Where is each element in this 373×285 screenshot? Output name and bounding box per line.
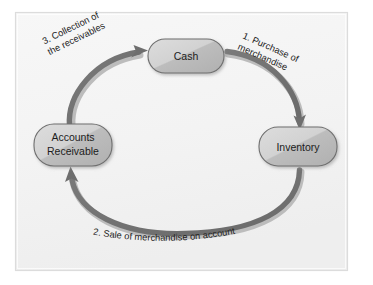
diagram-canvas: Cash Accounts Receivable Inventory 3. Co…: [0, 0, 373, 285]
node-inventory[interactable]: Inventory: [259, 127, 337, 166]
node-accounts-receivable-label-line1: Accounts: [51, 131, 94, 143]
node-inventory-label: Inventory: [276, 141, 320, 153]
operating-cycle-diagram: Cash Accounts Receivable Inventory 3. Co…: [0, 0, 373, 285]
node-accounts-receivable-label-line2: Receivable: [47, 145, 99, 157]
node-accounts-receivable[interactable]: Accounts Receivable: [34, 124, 112, 166]
node-cash[interactable]: Cash: [148, 39, 224, 73]
node-cash-label: Cash: [174, 50, 199, 62]
